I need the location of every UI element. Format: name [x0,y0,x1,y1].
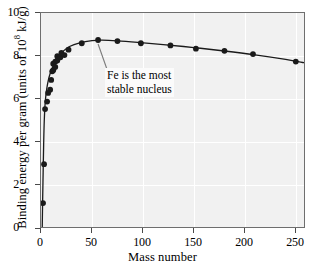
x-tick-label-150: 150 [173,236,213,248]
annotation-label: Fe is the most stable nucleus [105,68,174,97]
y-axis-label-suffix: kJ/g) [15,6,29,35]
data-point [222,48,228,54]
plot-area [40,12,305,228]
data-point [48,77,54,83]
data-point [66,47,72,53]
x-tick-mark-150 [193,228,194,233]
x-tick-label-250: 250 [275,236,315,248]
y-axis-label-prefix: Binding energy per gram (units of 10 [15,39,29,228]
data-point [41,161,47,167]
x-tick-mark-200 [244,228,245,233]
data-point [95,37,101,43]
x-tick-mark-100 [142,228,143,233]
y-axis-label-exponent: 8 [12,35,22,39]
data-point [62,52,68,58]
data-point [138,40,144,46]
annotation-line-2: stable nucleus [107,83,172,97]
data-point [293,59,299,65]
data-point [42,106,48,112]
data-point [168,43,174,49]
data-point [193,46,199,52]
x-tick-mark-250 [295,228,296,233]
y-axis-label: Binding energy per gram (units of 108 kJ… [15,0,30,238]
binding-energy-chart-figure: 10 8 6 4 2 0 Fe is the most stable nucle… [0,0,325,271]
x-tick-label-200: 200 [224,236,264,248]
x-tick-label-100: 100 [122,236,162,248]
data-point [41,200,46,206]
x-tick-label-50: 50 [71,236,111,248]
plot-svg [41,13,305,228]
x-axis-label: Mass number [0,250,325,265]
data-point [52,64,58,70]
x-tick-mark-0 [40,228,41,233]
data-point-group [41,37,299,206]
x-tick-mark-50 [91,228,92,233]
data-point [250,51,256,57]
x-tick-label-0: 0 [20,236,60,248]
data-point [44,99,50,105]
data-point [79,40,85,46]
annotation-line-1: Fe is the most [107,69,172,83]
data-point [115,38,121,44]
data-point [47,87,53,93]
